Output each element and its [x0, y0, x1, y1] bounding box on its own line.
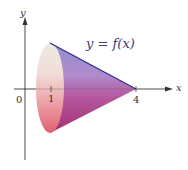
tick-label-4: 4: [133, 95, 139, 105]
y-axis-label: y: [20, 8, 26, 18]
tick-label-1: 1: [48, 94, 54, 104]
x-axis-arrow-icon: [165, 87, 173, 92]
function-label: y = f(x): [86, 36, 135, 51]
y-axis-arrow-icon: [23, 17, 28, 25]
cone-diagram: [0, 0, 188, 170]
x-axis-label: x: [176, 83, 182, 93]
cone-base-disk: [36, 43, 64, 133]
origin-label: 0: [16, 95, 22, 105]
y-axis: [23, 17, 28, 160]
